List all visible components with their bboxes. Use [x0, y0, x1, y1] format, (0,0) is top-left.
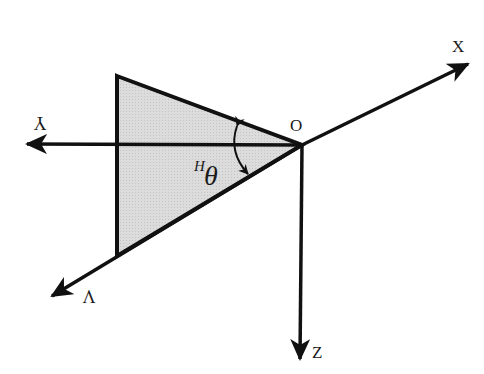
y-axis [27, 144, 302, 145]
coordinate-frame-diagram: O X Y Z V H θ [0, 0, 484, 374]
angle-theta-label: θ [204, 160, 218, 191]
z-axis [300, 145, 302, 359]
v-axis-label: V [83, 286, 96, 306]
x-axis [302, 64, 468, 145]
origin-label: O [290, 116, 302, 135]
z-axis-label: Z [312, 343, 322, 362]
x-axis-label: X [452, 37, 464, 56]
y-axis-label: Y [34, 113, 47, 133]
